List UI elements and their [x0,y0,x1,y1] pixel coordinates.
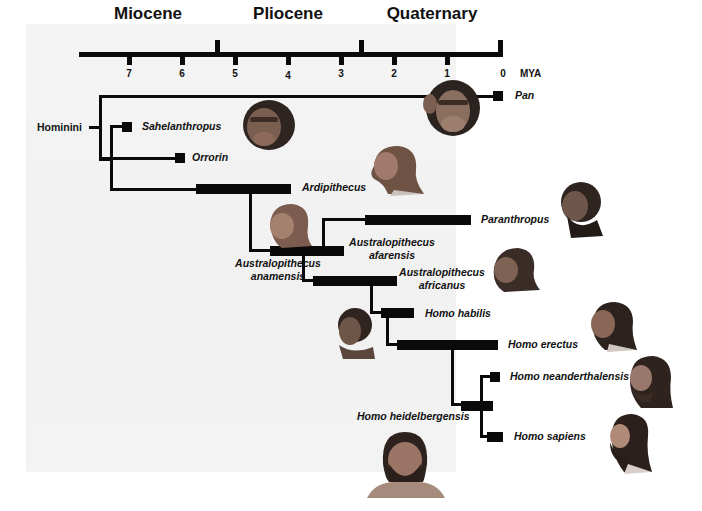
tick-label-5: 5 [232,68,238,79]
branch-orrorin [101,157,177,160]
label-ardipithecus: Ardipithecus [302,181,366,194]
sapiens-head-illustration [602,412,654,474]
unit-label: MYA [520,68,541,79]
label-pan: Pan [515,89,534,102]
label-heidelbergensis: Homo heidelbergensis [357,410,470,423]
range-bar-paranthropus [365,215,471,225]
root-label: Hominini [37,121,82,133]
branch-paranthropus [322,218,367,221]
epoch-quaternary: Quaternary [387,4,478,24]
range-bar-pan [493,91,503,101]
label-sahelanthropus: Sahelanthropus [142,120,221,133]
branch-erectus-vertical [386,318,389,345]
mya-tick [233,55,238,65]
range-bar-neanderthalensis [490,372,500,382]
tick-label-3: 3 [338,68,344,79]
tick-label-4: 4 [285,70,291,81]
erectus-head-illustration [585,298,637,352]
label-habilis: Homo habilis [425,307,491,320]
paranthropus-head-illustration [553,180,605,238]
mya-tick [392,55,397,65]
label-anamensis-genus: Australopithecus [228,257,328,270]
tick-label-2: 2 [391,68,397,79]
branch-sapiens-neanderthal-vertical [480,375,483,438]
range-bar-sahelanthropus [122,122,132,132]
label-orrorin: Orrorin [192,151,228,164]
label-afarensis-genus: Australopithecus [342,236,442,249]
africanus-head-illustration [488,244,542,294]
tick-label-6: 6 [179,68,185,79]
heidelbergensis-head-illustration [365,428,447,498]
branch-ardipithecus [110,188,198,191]
epoch-boundary-tick [498,40,503,55]
neanderthalensis-head-illustration [623,352,675,412]
habilis-head-illustration [333,305,377,359]
label-africanus-genus: Australopithecus [392,266,492,279]
range-bar-habilis [381,308,414,318]
range-bar-orrorin [175,153,185,163]
tick-label-7: 7 [126,68,132,79]
label-sapiens: Homo sapiens [514,430,586,443]
epoch-pliocene: Pliocene [253,4,323,24]
label-neanderthalensis: Homo neanderthalensis [510,370,629,383]
label-erectus: Homo erectus [508,338,578,351]
label-africanus-species: africanus [392,279,492,292]
label-paranthropus: Paranthropus [481,213,549,226]
range-bar-erectus [397,340,498,350]
mya-tick [127,55,132,65]
epoch-miocene: Miocene [114,4,182,24]
label-afarensis-species: afarensis [342,249,442,262]
epoch-boundary-tick [215,40,220,55]
ardipithecus-head-illustration [364,140,426,196]
mya-tick [445,55,450,65]
label-africanus: Australopithecus africanus [392,266,492,292]
range-bar-africanus [313,276,397,286]
branch-anamensis-vertical [249,193,252,251]
mya-tick [180,55,185,65]
branch-heidelbergensis-vertical [451,350,454,406]
mya-tick [286,55,291,65]
phylogeny-diagram: Miocene Pliocene Quaternary 7 6 5 4 3 2 … [0,0,702,511]
chimpanzee-head-illustration [421,78,485,140]
label-afarensis: Australopithecus afarensis [342,236,442,262]
branch-paranthropus-vertical [322,218,325,248]
branch-root-vertical [99,95,102,161]
sahelanthropus-head-illustration [236,97,298,153]
range-bar-ardipithecus [196,184,291,194]
timescale-axis [79,52,503,57]
range-bar-sapiens [487,432,503,442]
epoch-boundary-tick [359,40,364,55]
tick-label-0: 0 [500,68,506,79]
anamensis-head-illustration [264,200,314,250]
mya-tick [339,55,344,65]
